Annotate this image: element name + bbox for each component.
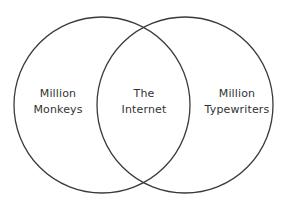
venn-label-intersection-line1: The [108,86,180,102]
venn-label-intersection: The Internet [108,86,180,118]
venn-label-left: Million Monkeys [18,86,98,118]
venn-label-intersection-line2: Internet [108,102,180,118]
venn-label-left-line1: Million [18,86,98,102]
venn-label-right: Million Typewriters [190,86,284,118]
venn-label-right-line2: Typewriters [190,102,284,118]
venn-label-left-line2: Monkeys [18,102,98,118]
venn-label-right-line1: Million [190,86,284,102]
venn-diagram: Million Monkeys The Internet Million Typ… [0,0,291,205]
